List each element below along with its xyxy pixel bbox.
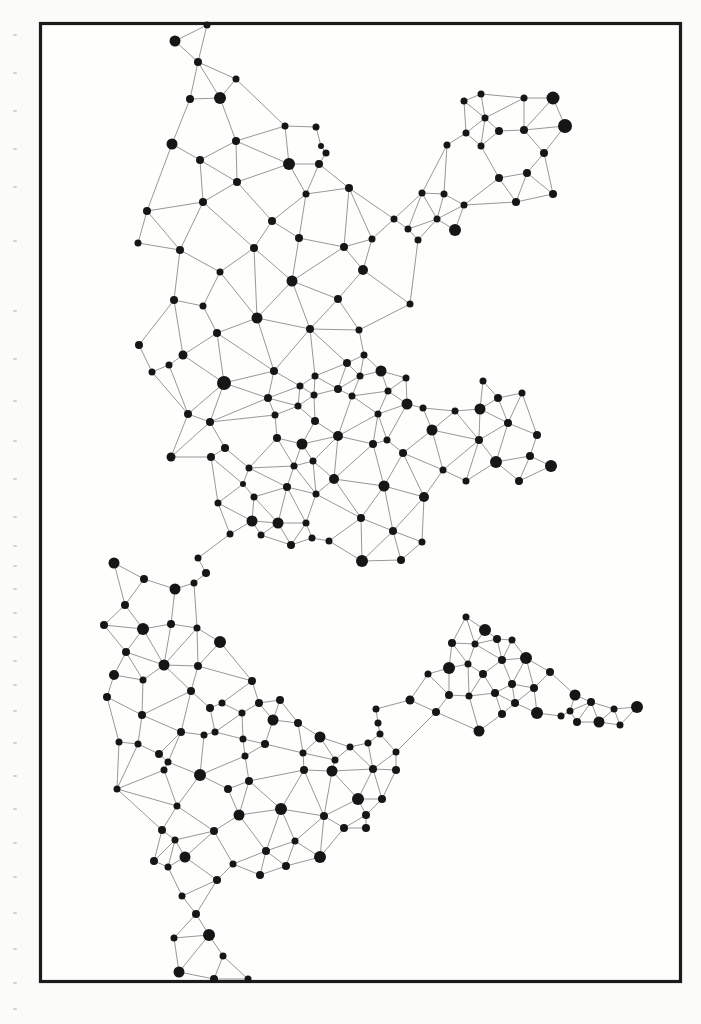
graph-node xyxy=(495,174,503,182)
graph-node xyxy=(494,394,502,402)
graph-node xyxy=(545,460,557,472)
graph-node xyxy=(233,178,241,186)
graph-node xyxy=(347,744,354,751)
graph-node xyxy=(406,696,415,705)
margin-scan-mark xyxy=(13,186,17,188)
graph-node xyxy=(358,265,368,275)
graph-node xyxy=(195,555,202,562)
graph-node xyxy=(149,369,156,376)
graph-node xyxy=(114,786,121,793)
graph-node xyxy=(230,861,237,868)
graph-node xyxy=(491,689,499,697)
graph-node xyxy=(362,824,370,832)
graph-node xyxy=(463,614,470,621)
graph-node xyxy=(448,639,456,647)
graph-node xyxy=(311,392,318,399)
graph-node xyxy=(201,732,208,739)
graph-node xyxy=(520,652,532,664)
graph-node xyxy=(327,766,338,777)
graph-node xyxy=(397,556,405,564)
graph-node xyxy=(174,967,185,978)
margin-scan-mark xyxy=(13,982,17,984)
graph-node xyxy=(334,295,342,303)
margin-scan-mark xyxy=(13,612,17,614)
graph-node xyxy=(352,793,364,805)
graph-node xyxy=(248,677,256,685)
graph-node xyxy=(558,713,565,720)
graph-node xyxy=(170,36,181,47)
margin-scan-mark xyxy=(13,912,17,914)
margin-scan-mark xyxy=(13,742,17,744)
diagram-border xyxy=(41,24,681,982)
graph-node xyxy=(282,862,290,870)
graph-node xyxy=(109,558,120,569)
graph-node xyxy=(213,329,221,337)
graph-node xyxy=(214,92,226,104)
graph-node xyxy=(116,739,123,746)
graph-node xyxy=(375,720,382,727)
graph-node xyxy=(194,662,202,670)
graph-node xyxy=(440,467,447,474)
graph-node xyxy=(345,184,353,192)
graph-node xyxy=(519,390,526,397)
graph-node xyxy=(170,296,178,304)
graph-node xyxy=(234,810,245,821)
graph-node xyxy=(379,481,390,492)
margin-scan-mark xyxy=(13,310,17,312)
graph-node xyxy=(445,691,453,699)
graph-node xyxy=(391,216,398,223)
graph-node xyxy=(258,532,265,539)
graph-node xyxy=(315,160,323,168)
graph-node xyxy=(472,641,479,648)
network-svg xyxy=(0,0,701,1024)
graph-node xyxy=(204,22,211,29)
graph-node xyxy=(227,531,234,538)
graph-node xyxy=(357,373,364,380)
graph-node xyxy=(449,224,461,236)
graph-node xyxy=(478,143,485,150)
graph-node xyxy=(159,660,170,671)
graph-node xyxy=(240,736,247,743)
graph-node xyxy=(444,142,451,149)
graph-node xyxy=(509,637,516,644)
graph-node xyxy=(369,765,377,773)
graph-node xyxy=(432,708,440,716)
graph-node xyxy=(165,759,172,766)
graph-node xyxy=(287,276,298,287)
margin-scan-mark xyxy=(13,516,17,518)
graph-node xyxy=(508,680,516,688)
scanned-page xyxy=(0,0,701,1024)
graph-node xyxy=(272,412,279,419)
graph-node xyxy=(504,419,512,427)
graph-node xyxy=(262,847,270,855)
graph-node xyxy=(270,367,278,375)
graph-node xyxy=(461,202,468,209)
margin-scan-mark xyxy=(13,34,17,36)
margin-scan-mark xyxy=(13,775,17,777)
graph-node xyxy=(214,636,226,648)
graph-node xyxy=(482,115,489,122)
graph-node xyxy=(196,156,204,164)
graph-node xyxy=(384,437,391,444)
graph-node xyxy=(167,453,176,462)
graph-node xyxy=(215,500,222,507)
graph-node xyxy=(247,516,258,527)
graph-node xyxy=(530,684,538,692)
margin-scan-mark xyxy=(13,110,17,112)
margin-scan-mark xyxy=(13,660,17,662)
graph-node xyxy=(268,715,279,726)
graph-node xyxy=(490,456,502,468)
graph-node xyxy=(369,440,377,448)
graph-node xyxy=(167,139,178,150)
graph-node xyxy=(427,425,438,436)
graph-node xyxy=(512,198,520,206)
graph-node xyxy=(385,388,392,395)
graph-node xyxy=(135,240,142,247)
graph-node xyxy=(217,269,224,276)
graph-node xyxy=(202,569,210,577)
margin-scan-mark xyxy=(13,400,17,402)
graph-node xyxy=(365,740,372,747)
graph-node xyxy=(332,757,339,764)
graph-node xyxy=(158,826,166,834)
graph-node xyxy=(103,693,111,701)
